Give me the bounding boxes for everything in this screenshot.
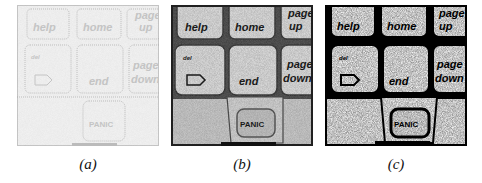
key-end-label: end [239, 75, 259, 87]
key-del-label: del [183, 55, 192, 61]
panel-a: help home page up del end page down PANI… [17, 5, 159, 146]
key-panic-label: PANIC [240, 120, 265, 129]
key-end-label: end [89, 75, 109, 87]
key-pagedown-label-1: page [132, 59, 159, 71]
key-home-label: home [387, 20, 416, 32]
key-panic-label: PANIC [394, 120, 419, 129]
key-help-label: help [337, 20, 360, 32]
key-home-label: home [83, 21, 112, 33]
key-pagedown-label-2: down [435, 72, 464, 84]
key-pagedown-label-1: page [436, 58, 463, 70]
keyboard-image-c: help home page up del end page down PANI… [325, 5, 467, 146]
key-home-label: home [235, 21, 264, 33]
key-help-label: help [185, 21, 208, 33]
key-end-label: end [389, 75, 409, 87]
key-pageup-label-1: page [134, 9, 159, 21]
caption-b: (b) [171, 156, 313, 173]
key-panic-label: PANIC [89, 120, 114, 129]
key-pagedown-label-2: down [283, 72, 312, 84]
key-pageup-label-2: up [439, 20, 453, 32]
caption-a: (a) [17, 156, 159, 173]
panel-b: help home page up del end page down PANI… [171, 5, 313, 146]
panel-c: help home page up del end page down PANI… [325, 5, 467, 146]
key-pagedown-label-1: page [286, 58, 313, 70]
key-pageup-label-2: up [139, 21, 153, 33]
caption-c: (c) [325, 156, 467, 173]
key-pageup-label-1: page [438, 7, 465, 19]
key-del-label: del [31, 54, 40, 60]
key-pagedown-label-2: down [131, 73, 159, 85]
key-help-label: help [33, 21, 56, 33]
key-del-label: del [339, 55, 348, 61]
key-pageup-label-1: page [287, 7, 313, 19]
key-pageup-label-2: up [289, 20, 303, 32]
keyboard-image-a: help home page up del end page down PANI… [17, 5, 159, 146]
keyboard-image-b: help home page up del end page down PANI… [171, 5, 313, 146]
